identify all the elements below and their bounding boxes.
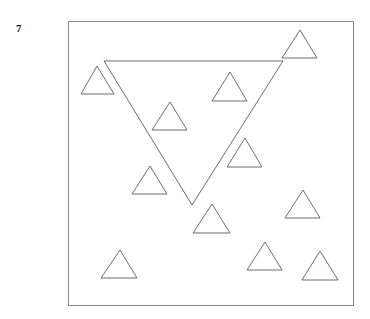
figure-canvas bbox=[0, 0, 370, 319]
small-triangle-bottom-right bbox=[302, 251, 338, 280]
small-triangle-below-apex bbox=[193, 204, 230, 233]
large-inverted-triangle bbox=[104, 61, 283, 205]
small-triangle-lower-left bbox=[132, 166, 167, 194]
small-triangle-group bbox=[81, 30, 338, 280]
small-triangle-upper-middle bbox=[212, 72, 247, 101]
small-triangle-top-left bbox=[81, 66, 114, 94]
small-triangle-right-edge bbox=[227, 138, 262, 167]
figure-container: 7 bbox=[0, 0, 370, 319]
small-triangle-mid-right bbox=[285, 190, 320, 218]
small-triangle-bottom-middle bbox=[247, 242, 282, 270]
small-triangle-inner-left bbox=[152, 102, 187, 130]
small-triangle-top-right bbox=[282, 30, 317, 58]
small-triangle-bottom-left bbox=[101, 250, 137, 278]
